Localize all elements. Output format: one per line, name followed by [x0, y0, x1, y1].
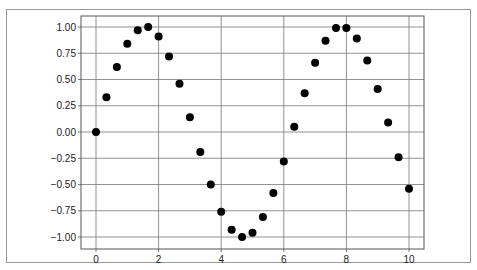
y-tick-label: −0.25 [51, 153, 77, 164]
data-point [322, 37, 330, 45]
y-tick-label: 0.75 [57, 48, 77, 59]
data-point [134, 26, 142, 34]
x-tick-label: 10 [403, 254, 415, 265]
data-point [280, 157, 288, 165]
y-axis-ticks: 1.000.750.500.250.00−0.25−0.50−0.75−1.00 [51, 22, 81, 243]
data-point [155, 32, 163, 40]
data-point [301, 89, 309, 97]
y-tick-label: 1.00 [57, 22, 77, 33]
data-point [374, 85, 382, 93]
y-tick-label: 0.00 [57, 127, 77, 138]
data-point [405, 185, 413, 193]
data-point [92, 128, 100, 136]
data-point [311, 59, 319, 67]
data-point [290, 123, 298, 131]
data-point [186, 113, 194, 121]
x-axis-ticks: 0246810 [93, 249, 415, 265]
y-tick-label: −1.00 [51, 232, 77, 243]
y-tick-label: 0.25 [57, 100, 77, 111]
data-point [342, 24, 350, 32]
data-point [165, 52, 173, 60]
y-tick-label: −0.50 [51, 179, 77, 190]
data-point [113, 63, 121, 71]
data-point [102, 93, 110, 101]
x-tick-label: 6 [281, 254, 287, 265]
data-point [217, 208, 225, 216]
data-point [269, 189, 277, 197]
y-tick-label: −0.75 [51, 205, 77, 216]
scatter-chart: 0246810 1.000.750.500.250.00−0.25−0.50−0… [0, 0, 477, 270]
x-tick-label: 0 [93, 254, 99, 265]
axes-border [81, 16, 424, 249]
data-point [196, 148, 204, 156]
data-point [144, 23, 152, 31]
data-point [353, 35, 361, 43]
data-point [228, 226, 236, 234]
x-tick-label: 8 [344, 254, 350, 265]
data-point [395, 153, 403, 161]
data-point [363, 57, 371, 65]
data-point [249, 229, 257, 237]
x-tick-label: 4 [218, 254, 224, 265]
x-tick-label: 2 [156, 254, 162, 265]
data-point [332, 24, 340, 32]
data-point [238, 233, 246, 241]
grid-lines [81, 16, 424, 249]
data-point [123, 40, 131, 48]
data-point [175, 80, 183, 88]
data-point [207, 181, 215, 189]
data-point [259, 213, 267, 221]
data-point [384, 119, 392, 127]
y-tick-label: 0.50 [57, 74, 77, 85]
